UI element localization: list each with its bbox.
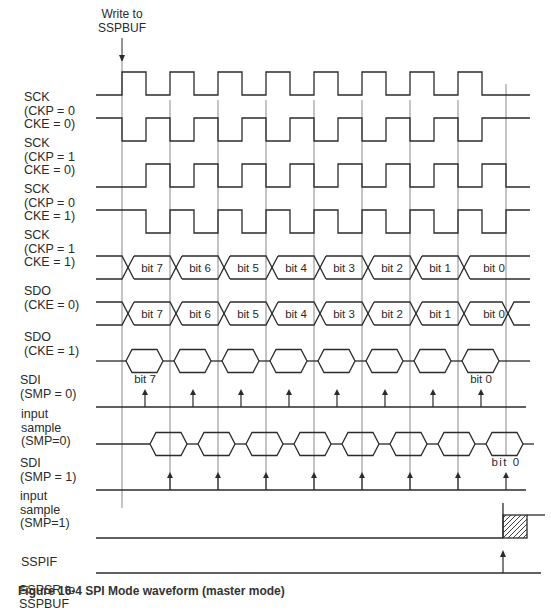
arrowhead-icon <box>478 389 484 395</box>
arrowhead-icon <box>455 472 461 478</box>
bit-label: bit 5 <box>237 262 259 274</box>
bit-label: bit 3 <box>333 308 355 320</box>
data-window <box>390 433 427 456</box>
arrowhead-icon <box>407 472 413 478</box>
bit-label: bit 7 <box>141 308 163 320</box>
data-window <box>486 433 523 456</box>
data-window <box>174 350 211 373</box>
data-window <box>366 350 403 373</box>
arrowhead-icon <box>190 389 196 395</box>
waveform-sspif <box>96 503 545 538</box>
data-window <box>246 433 283 456</box>
hatch-line <box>518 529 527 538</box>
data-window <box>126 350 163 373</box>
arrowhead-icon <box>430 389 436 395</box>
waveform-sdi1 <box>96 350 530 373</box>
arrowhead-icon <box>238 389 244 395</box>
waveform-sck4 <box>96 210 530 233</box>
data-window <box>222 350 259 373</box>
last-sample-label: bit 0 <box>470 373 492 385</box>
arrowhead-icon <box>263 472 269 478</box>
bit-label: bit 2 <box>381 262 403 274</box>
hatch-line <box>503 515 521 533</box>
arrowhead-icon <box>359 472 365 478</box>
waveform-sdo2: bit 7bit 6bit 5bit 4bit 3bit 2bit 1bit 0 <box>96 302 530 325</box>
arrowhead-icon <box>500 550 506 557</box>
bit-label: bit 4 <box>285 308 307 320</box>
data-window <box>294 433 331 456</box>
waveform-sdo1: bit 7bit 6bit 5bit 4bit 3bit 2bit 1bit 0 <box>96 256 530 279</box>
bit-label: bit 1 <box>429 262 451 274</box>
arrowhead-icon <box>167 472 173 478</box>
waveform-sck2 <box>96 118 530 141</box>
data-window <box>462 350 499 373</box>
arrowhead-icon <box>503 472 509 478</box>
arrowhead-icon <box>286 389 292 395</box>
write-marker-arrow-icon: Write to SSPBUF <box>98 7 146 62</box>
waveform-sspsr <box>96 550 541 573</box>
data-window <box>318 350 355 373</box>
arrowhead-icon <box>142 389 148 395</box>
data-window <box>150 433 187 456</box>
arrowhead-icon <box>382 389 388 395</box>
data-window <box>270 350 307 373</box>
bit-label: bit 0 <box>483 262 505 274</box>
hatch-line <box>508 519 527 538</box>
bit-label: bit 0 <box>483 308 505 320</box>
bit-label: bit 1 <box>429 308 451 320</box>
arrowhead-icon <box>334 389 340 395</box>
bit-label: bit 6 <box>189 262 211 274</box>
arrowhead-icon <box>311 472 317 478</box>
bit-label: bit 7 <box>141 262 163 274</box>
bit-label: bit 6 <box>189 308 211 320</box>
waveform-smp1: bit 0 <box>96 456 526 490</box>
data-window <box>198 433 235 456</box>
waveform-sck1 <box>96 72 530 95</box>
waveform-smp0: bit 7bit 0 <box>96 373 526 407</box>
arrowhead-icon <box>215 472 221 478</box>
figure-caption: Figure 16-4 SPI Mode waveform (master mo… <box>18 584 285 598</box>
bit-label: bit 5 <box>237 308 259 320</box>
last-sample-label: bit 0 <box>491 456 520 468</box>
first-sample-label: bit 7 <box>134 373 156 385</box>
write-marker-line2: SSPBUF <box>98 21 146 35</box>
bus-edge <box>96 256 134 279</box>
waveform-sdi2 <box>96 433 534 456</box>
bit-label: bit 3 <box>333 262 355 274</box>
waveforms: bit 7bit 6bit 5bit 4bit 3bit 2bit 1bit 0… <box>96 72 545 573</box>
waveform-sck3 <box>96 164 530 187</box>
bit-label: bit 2 <box>381 308 403 320</box>
bit-label: bit 4 <box>285 262 307 274</box>
write-marker-line1: Write to <box>101 7 142 21</box>
data-window <box>342 433 379 456</box>
data-window <box>414 350 451 373</box>
data-window <box>438 433 475 456</box>
hatch-line <box>503 515 526 538</box>
bus-edge <box>96 302 134 325</box>
